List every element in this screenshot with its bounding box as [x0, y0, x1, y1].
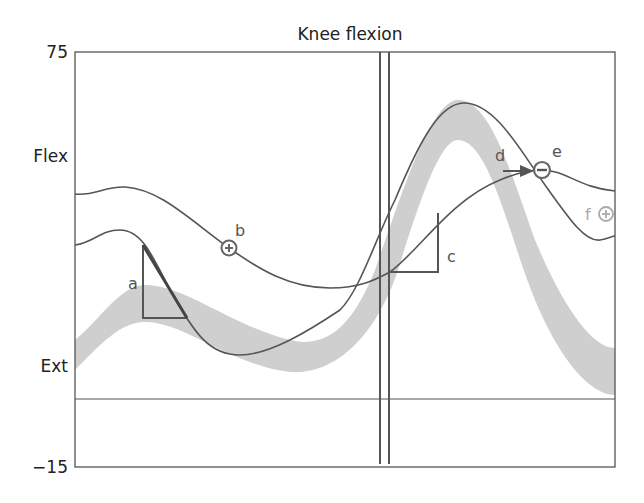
plus-circle-marker-b — [222, 241, 237, 256]
chart-title: Knee flexion — [297, 24, 402, 44]
plus-circle-marker-f — [599, 207, 613, 221]
knee-flexion-chart: Knee flexion 75 Flex Ext −15 a b c — [0, 0, 644, 503]
annotation-b: b — [235, 221, 245, 240]
annotation-e: e — [552, 142, 562, 161]
minus-circle-marker-e — [534, 162, 550, 178]
annotation-c: c — [447, 247, 456, 266]
annotation-a: a — [128, 274, 138, 293]
normal-range-band — [75, 100, 615, 395]
y-tick-minus-15: −15 — [32, 457, 68, 477]
annotation-d: d — [495, 146, 505, 165]
y-label-flex: Flex — [33, 146, 68, 166]
y-label-ext: Ext — [41, 356, 69, 376]
annotation-f: f — [585, 205, 591, 224]
y-tick-75: 75 — [46, 42, 68, 62]
